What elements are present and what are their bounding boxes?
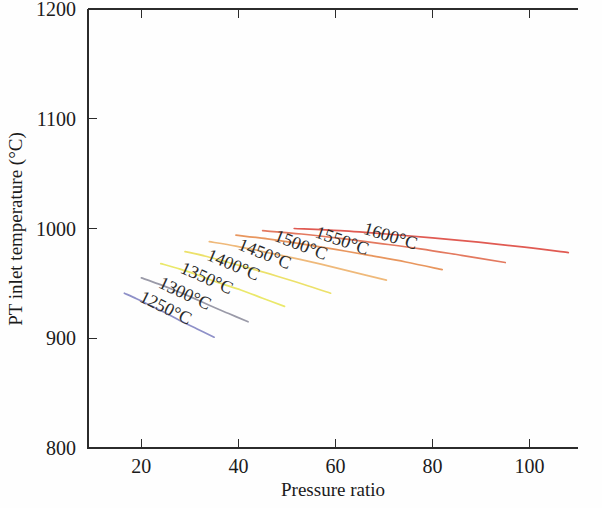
x-tick-label: 20 [131, 455, 151, 477]
y-tick-label: 900 [46, 327, 76, 349]
y-tick-label: 800 [46, 437, 76, 459]
y-tick-label: 1000 [36, 218, 76, 240]
y-tick-label: 1100 [37, 108, 76, 130]
x-axis-title: Pressure ratio [281, 479, 385, 500]
pressure-ratio-temperature-chart: 800900100011001200 20406080100 1250°C130… [0, 0, 602, 508]
x-tick-label: 80 [422, 455, 442, 477]
x-tick-label: 100 [514, 455, 544, 477]
y-axis-title: PT inlet temperature (°C) [5, 132, 27, 326]
x-tick-label: 40 [228, 455, 248, 477]
y-tick-label: 1200 [36, 0, 76, 20]
chart-page: 800900100011001200 20406080100 1250°C130… [0, 0, 602, 508]
x-tick-label: 60 [325, 455, 345, 477]
